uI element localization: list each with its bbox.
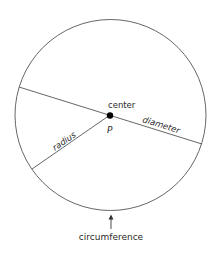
center-label: center (108, 100, 136, 110)
arrow-up-icon (109, 215, 114, 220)
point-p-label: P (107, 125, 113, 135)
circumference-label: circumference (79, 232, 144, 242)
diameter-label: diameter (141, 114, 181, 135)
center-point (107, 112, 113, 118)
radius-label: radius (50, 129, 78, 153)
circle-diagram: center P diameter radius circumference (0, 0, 215, 253)
